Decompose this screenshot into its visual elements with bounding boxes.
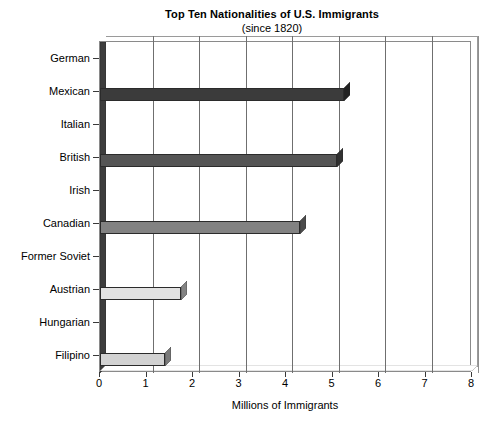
- y-axis-category-label: Filipino: [55, 349, 90, 361]
- table-row: [100, 148, 472, 167]
- x-tick-label: 3: [227, 377, 251, 389]
- x-tick-label: 0: [87, 377, 111, 389]
- y-axis-category-label: Former Soviet: [21, 250, 90, 262]
- x-tick-label: 8: [459, 377, 483, 389]
- table-row: [100, 347, 472, 366]
- bar-side-face: [181, 281, 187, 300]
- y-axis-category-label: Irish: [69, 184, 90, 196]
- y-axis-category-label: German: [50, 52, 90, 64]
- bar-front-face: [100, 88, 344, 101]
- y-tick: [93, 124, 99, 125]
- x-tick-label: 5: [320, 377, 344, 389]
- table-row: [100, 215, 472, 234]
- table-row: [100, 248, 472, 267]
- y-axis-category-label: Canadian: [43, 217, 90, 229]
- y-axis-category-label: British: [59, 151, 90, 163]
- y-axis-category-label: Hungarian: [39, 316, 90, 328]
- bar-side-face: [165, 347, 171, 366]
- y-tick: [93, 58, 99, 59]
- table-row: [100, 82, 472, 101]
- table-row: [100, 181, 472, 200]
- y-tick: [93, 91, 99, 92]
- x-tick-label: 2: [180, 377, 204, 389]
- y-axis-category-label: Italian: [61, 118, 90, 130]
- table-row: [100, 314, 472, 333]
- y-tick: [93, 355, 99, 356]
- y-axis-category-label: Austrian: [50, 283, 90, 295]
- bar-side-face: [300, 215, 306, 234]
- bar-austrian[interactable]: [100, 281, 187, 300]
- x-tick-label: 1: [134, 377, 158, 389]
- gridline-8: [478, 36, 479, 373]
- y-tick: [93, 190, 99, 191]
- x-axis-title: Millions of Immigrants: [99, 399, 471, 411]
- table-row: [100, 49, 472, 68]
- bar-front-face: [100, 353, 165, 366]
- y-tick: [93, 223, 99, 224]
- table-row: [100, 115, 472, 134]
- y-tick: [93, 322, 99, 323]
- y-tick: [93, 157, 99, 158]
- bar-filipino[interactable]: [100, 347, 171, 366]
- plot-area: [99, 41, 471, 372]
- bar-british[interactable]: [100, 148, 343, 167]
- bar-canadian[interactable]: [100, 215, 306, 234]
- y-tick: [93, 256, 99, 257]
- bar-side-face: [337, 148, 343, 167]
- bar-front-face: [100, 154, 337, 167]
- bar-front-face: [100, 287, 181, 300]
- bar-mexican[interactable]: [100, 82, 350, 101]
- bar-front-face: [100, 221, 300, 234]
- bar-side-face: [344, 82, 350, 101]
- x-tick-label: 6: [366, 377, 390, 389]
- x-tick-label: 7: [413, 377, 437, 389]
- x-tick-label: 4: [273, 377, 297, 389]
- table-row: [100, 281, 472, 300]
- chart-canvas: 012345678 GermanMexicanItalianBritishIri…: [0, 0, 486, 441]
- y-tick: [93, 289, 99, 290]
- y-axis-category-label: Mexican: [49, 85, 90, 97]
